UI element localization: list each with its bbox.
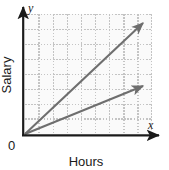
y-axis-title: Salary [0,56,14,93]
x-axis-variable-label: x [147,118,154,132]
y-axis-variable-label: y [27,1,34,15]
chart-canvas: y x 0 Hours Salary [0,0,169,170]
origin-label: 0 [8,138,15,153]
x-axis-title: Hours [69,154,104,169]
salary-vs-hours-graph: y x 0 Hours Salary [0,0,169,170]
